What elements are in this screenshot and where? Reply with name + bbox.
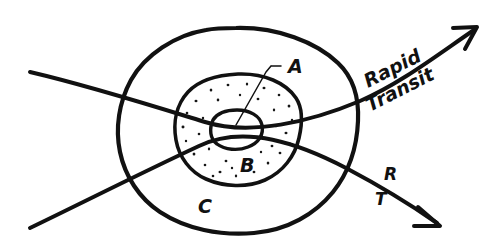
- route-label-t: T: [375, 189, 388, 209]
- zone-b-stipple: [182, 83, 294, 178]
- hand-drawn-diagram: A B C Rapid Transit R T: [0, 0, 503, 252]
- zone-b-outline: [175, 74, 302, 186]
- zone-label-b: B: [240, 154, 254, 176]
- diagram-canvas: A B C Rapid Transit R T: [0, 0, 503, 252]
- zone-label-c: C: [198, 195, 212, 217]
- zone-a-outline: [211, 110, 263, 149]
- zone-c-outline: [118, 28, 358, 234]
- zone-label-a: A: [286, 55, 303, 77]
- route-label-r: R: [384, 164, 397, 184]
